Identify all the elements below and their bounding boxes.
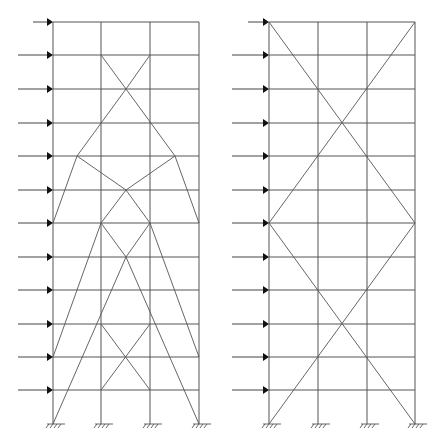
arrow-head-icon	[263, 353, 269, 361]
support-hatch	[412, 424, 415, 428]
fixed-support-icon	[408, 424, 427, 428]
support-hatch	[147, 424, 150, 428]
arrow-head-icon	[263, 386, 269, 394]
arrow-head-icon	[263, 85, 269, 93]
lateral-load-arrow-icon	[18, 51, 53, 59]
arrow-head-icon	[47, 186, 53, 194]
brace-member	[126, 190, 150, 223]
support-hatch	[54, 424, 57, 428]
arrow-head-icon	[47, 353, 53, 361]
support-hatch	[323, 424, 326, 428]
support-hatch	[98, 424, 101, 428]
support-hatch	[420, 424, 423, 428]
arrow-head-icon	[263, 186, 269, 194]
arrow-head-icon	[47, 286, 53, 294]
arrow-head-icon	[47, 85, 53, 93]
left-frame	[18, 18, 211, 428]
arrow-head-icon	[47, 152, 53, 160]
brace-member	[126, 223, 150, 257]
brace-member	[126, 55, 150, 89]
brace-member	[101, 55, 126, 89]
support-hatch	[102, 424, 105, 428]
support-hatch	[155, 424, 158, 428]
arrow-head-icon	[263, 119, 269, 127]
arrow-head-icon	[47, 18, 53, 26]
arrow-head-icon	[263, 286, 269, 294]
support-hatch	[204, 424, 207, 428]
arrow-head-icon	[47, 386, 53, 394]
support-hatch	[408, 424, 411, 428]
support-hatch	[274, 424, 277, 428]
arrow-head-icon	[263, 152, 269, 160]
brace-member	[101, 223, 126, 257]
support-hatch	[360, 424, 363, 428]
support-hatch	[311, 424, 314, 428]
brace-member	[101, 190, 126, 223]
support-hatch	[143, 424, 146, 428]
lateral-load-arrow-icon	[232, 152, 269, 160]
support-hatch	[200, 424, 203, 428]
fixed-support-icon	[360, 424, 379, 428]
lateral-load-arrow-icon	[18, 119, 53, 127]
lateral-load-arrow-icon	[18, 353, 53, 361]
support-hatch	[151, 424, 154, 428]
lateral-load-arrow-icon	[232, 320, 269, 328]
lateral-load-arrow-icon	[18, 286, 53, 294]
brace-member	[53, 257, 126, 424]
support-hatch	[364, 424, 367, 428]
lateral-load-arrow-icon	[33, 18, 53, 26]
lateral-load-arrow-icon	[232, 286, 269, 294]
fixed-support-icon	[143, 424, 162, 428]
support-hatch	[94, 424, 97, 428]
lateral-load-arrow-icon	[232, 219, 269, 227]
right-frame	[232, 18, 427, 428]
support-hatch	[416, 424, 419, 428]
arrow-head-icon	[47, 320, 53, 328]
support-hatch	[196, 424, 199, 428]
lateral-load-arrow-icon	[248, 18, 269, 26]
arrow-head-icon	[263, 320, 269, 328]
fixed-support-icon	[311, 424, 330, 428]
support-hatch	[368, 424, 371, 428]
lateral-load-arrow-icon	[232, 353, 269, 361]
brace-member	[126, 257, 199, 424]
support-hatch	[262, 424, 265, 428]
fixed-support-icon	[262, 424, 281, 428]
support-hatch	[266, 424, 269, 428]
support-hatch	[58, 424, 61, 428]
arrow-head-icon	[47, 253, 53, 261]
lateral-load-arrow-icon	[232, 85, 269, 93]
lateral-load-arrow-icon	[232, 186, 269, 194]
lateral-load-arrow-icon	[232, 119, 269, 127]
lateral-load-arrow-icon	[18, 219, 53, 227]
arrow-head-icon	[47, 51, 53, 59]
arrow-head-icon	[47, 219, 53, 227]
arrow-head-icon	[263, 253, 269, 261]
arrow-head-icon	[263, 219, 269, 227]
lateral-load-arrow-icon	[18, 386, 53, 394]
support-hatch	[192, 424, 195, 428]
support-hatch	[106, 424, 109, 428]
support-hatch	[50, 424, 53, 428]
lateral-load-arrow-icon	[232, 386, 269, 394]
support-hatch	[46, 424, 49, 428]
support-hatch	[319, 424, 322, 428]
arrow-head-icon	[263, 51, 269, 59]
lateral-load-arrow-icon	[18, 85, 53, 93]
lateral-load-arrow-icon	[18, 320, 53, 328]
lateral-load-arrow-icon	[18, 152, 53, 160]
braced-frames-diagram	[0, 0, 445, 446]
fixed-support-icon	[94, 424, 113, 428]
fixed-support-icon	[46, 424, 65, 428]
lateral-load-arrow-icon	[232, 253, 269, 261]
support-hatch	[315, 424, 318, 428]
support-hatch	[372, 424, 375, 428]
lateral-load-arrow-icon	[18, 253, 53, 261]
lateral-load-arrow-icon	[232, 51, 269, 59]
arrow-head-icon	[47, 119, 53, 127]
fixed-support-icon	[192, 424, 211, 428]
arrow-head-icon	[263, 18, 269, 26]
frames-root	[18, 18, 427, 428]
lateral-load-arrow-icon	[18, 186, 53, 194]
support-hatch	[270, 424, 273, 428]
